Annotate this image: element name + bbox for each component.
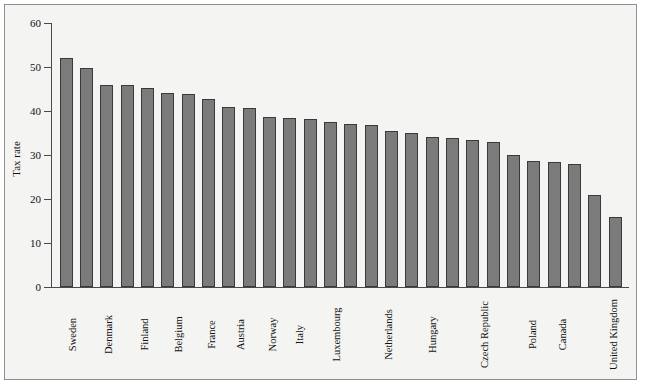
x-axis-tick-label-slot: Austria [225,291,256,387]
bar[interactable] [80,68,93,287]
bar-slot [402,23,422,287]
bar-slot [422,23,442,287]
bar-slot [198,23,218,287]
bar[interactable] [222,107,235,287]
x-axis-tick-label-slot: France [197,291,226,387]
x-axis-tick-label: Czech Republic [479,301,490,368]
y-axis-tick [44,155,51,156]
bar[interactable] [385,131,398,287]
bar[interactable] [182,94,195,287]
bar[interactable] [405,133,418,287]
bar[interactable] [243,108,256,287]
x-axis-tick-label-slot: United Kingdom [578,291,647,387]
y-axis-tick-label: 60 [17,23,41,24]
bar-slot [442,23,462,287]
bar-slot [361,23,381,287]
bar-slot [117,23,137,287]
bar[interactable] [365,125,378,287]
bar[interactable] [161,93,174,287]
x-axis-tick-label: Canada [557,319,568,351]
bar-slot [463,23,483,287]
bar-slot [503,23,523,287]
x-axis-tick-label-slot: Netherlands [363,291,414,387]
x-axis-tick-label: United Kingdom [608,299,619,370]
bar-chart: Tax rate 0102030405060 SwedenDenmarkFinl… [5,5,638,381]
y-axis-tick-label: 40 [17,111,41,112]
bar[interactable] [527,161,540,287]
chart-frame: Tax rate 0102030405060 SwedenDenmarkFinl… [4,4,637,380]
y-axis-tick-label: 50 [17,67,41,68]
x-axis-tick-label: Luxembourg [331,307,342,361]
bar[interactable] [202,99,215,287]
bar[interactable] [304,119,317,287]
bar-slot [341,23,361,287]
x-axis-tick-label: Finland [139,318,150,350]
x-axis-tick-label-slot: Sweden [56,291,89,387]
x-axis-tick-label: Hungary [427,316,438,353]
bar-slot [259,23,279,287]
y-axis-tick [44,23,51,24]
bar[interactable] [141,88,154,287]
x-axis-tick-label-slot: Belgium [160,291,196,387]
x-axis-tick-label: Netherlands [383,309,394,360]
x-axis-tick-label-slot: Finland [128,291,160,387]
y-axis-tick [44,287,51,288]
x-axis-tick-label: Italy [294,325,305,344]
x-axis-tick-label: Poland [527,320,538,349]
bar-slot [524,23,544,287]
x-axis-tick-label-slot: Canada [547,291,579,387]
x-axis-tick-label: Belgium [173,316,184,352]
bar[interactable] [548,162,561,287]
bar-slot [483,23,503,287]
bar[interactable] [466,140,479,287]
x-axis-tick-label: Sweden [67,318,78,351]
y-axis-label-text: Tax rate [10,141,22,177]
bar[interactable] [426,137,439,287]
bar[interactable] [263,117,276,287]
y-axis-tick [44,67,51,68]
bar[interactable] [283,118,296,287]
x-axis-tick-label-slot: Hungary [414,291,451,387]
bar-slot [239,23,259,287]
bar[interactable] [487,142,500,287]
bar-slot [381,23,401,287]
x-axis-tick-label-slot: Norway [256,291,290,387]
x-axis-tick-label-slot: Czech Republic [451,291,518,387]
bar[interactable] [324,122,337,287]
x-axis-tick-label: Denmark [103,315,114,354]
bar-slot [97,23,117,287]
bar-slot [300,23,320,287]
bar[interactable] [507,155,520,287]
bar-slot [178,23,198,287]
bar-slot [76,23,96,287]
bar[interactable] [609,217,622,287]
x-axis-tick-label: Austria [235,319,246,350]
y-axis-tick [44,243,51,244]
y-axis-tick-label: 30 [17,155,41,156]
bar[interactable] [588,195,601,287]
axes: 0102030405060 [51,23,629,288]
bar-slot [544,23,564,287]
bar[interactable] [344,124,357,287]
x-axis-line [51,287,629,288]
bar-slot [564,23,584,287]
y-axis-tick-label: 20 [17,199,41,200]
y-axis-tick [44,199,51,200]
bar[interactable] [446,138,459,287]
bar[interactable] [568,164,581,287]
bar[interactable] [100,85,113,287]
bar-slot [585,23,605,287]
x-axis-tick-label-slot: Italy [290,291,309,387]
bar[interactable] [60,58,73,287]
bar-slot [320,23,340,287]
x-axis-tick-label-slot: Denmark [89,291,128,387]
x-axis-tick-label: Norway [268,318,279,352]
bar-series [52,23,629,287]
y-axis-label: Tax rate [7,99,25,219]
bar[interactable] [121,85,134,287]
y-axis-tick-label: 0 [17,287,41,288]
x-axis-tick-label-slot: Luxembourg [309,291,363,387]
bar-slot [605,23,625,287]
bar-slot [219,23,239,287]
bar-slot [137,23,157,287]
